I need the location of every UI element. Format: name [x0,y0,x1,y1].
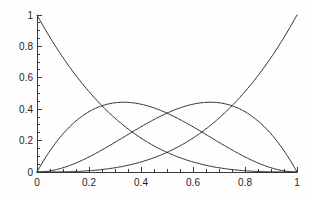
x-tick-label: 0.8 [238,177,252,188]
axes-group [37,15,297,172]
y-tick-label: 0.2 [19,135,33,146]
x-tick-label: 0 [34,177,40,188]
y-tick-label: 0.8 [19,41,33,52]
curve-B3 [37,15,297,172]
x-tick-label: 1 [294,177,300,188]
y-axis-ticks [37,15,42,172]
y-tick-label: 0.4 [19,104,33,115]
x-axis-tick-labels: 00.20.40.60.81 [34,177,300,188]
curve-B2 [37,102,297,172]
y-tick-label: 1 [27,10,33,21]
x-tick-label: 0.2 [82,177,96,188]
y-axis-tick-labels: 00.20.40.60.81 [19,10,33,178]
x-tick-label: 0.4 [134,177,148,188]
y-tick-label: 0 [27,167,33,178]
curve-B0 [37,15,297,172]
chart-curves [37,15,297,172]
chart-plot-area: 00.20.40.60.81 00.20.40.60.81 [0,0,312,198]
y-tick-label: 0.6 [19,72,33,83]
x-tick-label: 0.6 [186,177,200,188]
chart-container: 00.20.40.60.81 00.20.40.60.81 [0,0,312,198]
